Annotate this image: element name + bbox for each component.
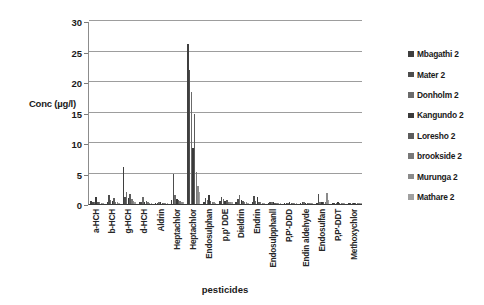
y-axis-tick-mark: [84, 22, 88, 23]
legend-label: Mathare 2: [417, 192, 454, 202]
gridline: [89, 20, 362, 21]
x-axis-label-slot: P,P'-DDT: [330, 207, 346, 279]
x-axis-tick-label: Dieldrin: [237, 209, 246, 238]
x-axis-tick-label: Endosulpphanll: [269, 209, 278, 268]
bar-group: [186, 22, 202, 204]
legend-label: Mbagathi 2: [417, 49, 459, 59]
x-axis-label-slot: Endosulphan: [201, 207, 217, 279]
x-axis-tick-label: Heptachlor: [172, 209, 181, 250]
bar-group: [347, 22, 363, 204]
bar: [151, 203, 152, 204]
y-axis-tick-label: 10: [56, 139, 82, 150]
bar-group: [282, 22, 298, 204]
x-axis-label-slot: Endin aldehyde: [298, 207, 314, 279]
legend-swatch-icon: [408, 92, 414, 98]
y-axis-tick-mark: [84, 144, 88, 145]
legend-item[interactable]: Kangundo 2: [408, 105, 484, 125]
x-axis-label-slot: Aldrin: [152, 207, 168, 279]
x-axis-tick-label: Endosulphan: [204, 209, 213, 259]
x-axis-tick-label: a-HCH: [92, 209, 101, 233]
x-axis-label-slot: b-HCH: [104, 207, 120, 279]
bar-group: [153, 22, 169, 204]
legend-item[interactable]: Loresho 2: [408, 126, 484, 146]
x-axis-tick-label: Endrin: [253, 209, 262, 234]
x-axis-label-slot: P,P'-DDD: [281, 207, 297, 279]
bar: [102, 203, 103, 204]
bar: [167, 203, 168, 204]
x-axis-tick-label: d-HCH: [140, 209, 149, 233]
bar-group: [137, 22, 153, 204]
x-axis-label-slot: Dieldrin: [233, 207, 249, 279]
legend-item[interactable]: Mathare 2: [408, 187, 484, 207]
x-axis-tick-label: P,P'-DDD: [285, 209, 294, 242]
x-axis-label-slot: Endrin: [249, 207, 265, 279]
bar-group: [331, 22, 347, 204]
x-axis-tick-label: Endosulfan: [317, 209, 326, 252]
legend-item[interactable]: Murunga 2: [408, 166, 484, 186]
bar: [134, 202, 135, 204]
legend-swatch-icon: [408, 194, 414, 200]
legend-swatch-icon: [408, 51, 414, 57]
x-axis-label-slot: Endosulfan: [314, 207, 330, 279]
legend-label: Donholm 2: [417, 90, 458, 100]
legend-label: Mater 2: [417, 70, 445, 80]
legend: Mbagathi 2Mater 2Donholm 2Kangundo 2Lore…: [408, 44, 484, 207]
bar: [360, 203, 361, 204]
y-axis-tick-label: 0: [56, 200, 82, 211]
x-axis-tick-label: Heptachlor: [188, 209, 197, 250]
bar: [199, 192, 200, 204]
bar-group: [202, 22, 218, 204]
x-axis-label-slot: a-HCH: [88, 207, 104, 279]
bar-group: [89, 22, 105, 204]
x-axis-label-slot: Heptachlor: [185, 207, 201, 279]
bar: [183, 202, 184, 204]
legend-item[interactable]: brookside 2: [408, 146, 484, 166]
bar: [263, 203, 264, 204]
bar-group: [218, 22, 234, 204]
x-axis-label-slot: d-HCH: [136, 207, 152, 279]
y-axis-tick-label: 5: [56, 169, 82, 180]
x-axis-tick-label: Endin aldehyde: [301, 209, 310, 267]
x-axis-tick-label: Aldrin: [156, 209, 165, 231]
x-axis-label-slot: Endosulpphanll: [265, 207, 281, 279]
y-axis-tick-mark: [84, 205, 88, 206]
x-axis-label-slot: p,p' DDE: [217, 207, 233, 279]
x-axis-tick-label: Methoxychlor: [349, 209, 358, 260]
bar-group: [250, 22, 266, 204]
x-axis-tick-label: g-HCH: [124, 209, 133, 233]
legend-swatch-icon: [408, 113, 414, 119]
legend-label: Murunga 2: [417, 172, 458, 182]
x-axis-title: pesticides: [88, 284, 362, 295]
legend-item[interactable]: Mbagathi 2: [408, 44, 484, 64]
y-axis-tick-label: 15: [56, 108, 82, 119]
plot-area: [88, 22, 362, 205]
x-axis-label-slot: Heptachlor: [169, 207, 185, 279]
bar-group: [105, 22, 121, 204]
legend-item[interactable]: Donholm 2: [408, 85, 484, 105]
bar-group: [315, 22, 331, 204]
bar: [328, 200, 329, 204]
legend-item[interactable]: Mater 2: [408, 64, 484, 84]
x-axis-label-slot: g-HCH: [120, 207, 136, 279]
x-axis-tick-label: p,p' DDE: [220, 209, 229, 241]
bar: [118, 203, 119, 204]
x-axis-tick-labels: a-HCHb-HCHg-HCHd-HCHAldrinHeptachlorHept…: [88, 207, 362, 279]
y-axis-tick-mark: [84, 83, 88, 84]
y-axis-tick-label: 20: [56, 78, 82, 89]
y-axis-tick-mark: [84, 114, 88, 115]
bar: [215, 203, 216, 204]
y-axis-tick-mark: [84, 175, 88, 176]
bar-group: [170, 22, 186, 204]
legend-label: brookside 2: [417, 151, 462, 161]
bar: [296, 203, 297, 204]
bar-chart: Conc (µg/l) 051015202530 a-HCHb-HCHg-HCH…: [0, 0, 484, 305]
y-axis-tick-mark: [84, 53, 88, 54]
bar: [231, 202, 232, 204]
legend-swatch-icon: [408, 174, 414, 180]
y-axis-tick-label: 25: [56, 47, 82, 58]
bar: [280, 203, 281, 204]
x-axis-label-slot: Methoxychlor: [346, 207, 362, 279]
bar-group: [121, 22, 137, 204]
bar: [344, 203, 345, 204]
bar-group: [266, 22, 282, 204]
